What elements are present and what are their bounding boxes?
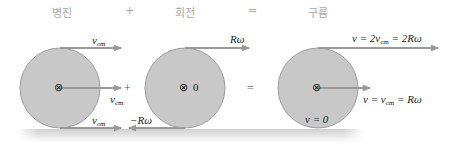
axis-icon: ⊗ — [312, 82, 321, 93]
translation-top-velocity-label: vcm — [92, 35, 105, 48]
translation-bottom-velocity-label: vcm — [92, 115, 105, 128]
ground-surface — [18, 129, 363, 143]
rolling-top-velocity-label: v = 2vcm = 2Rω — [352, 33, 422, 46]
rotation-bottom-velocity-label: −Rω — [130, 115, 152, 126]
axis-icon: ⊗ — [179, 82, 188, 93]
rotation-center-velocity-zero: 0 — [193, 82, 199, 93]
axis-icon: ⊗ — [54, 82, 63, 93]
rolling-center-velocity-label: v = vcm = Rω — [363, 94, 422, 107]
rotation-top-velocity-label: Rω — [230, 34, 245, 45]
disk-rolling — [278, 48, 438, 128]
equals-sign: = — [247, 82, 254, 94]
diagram-graphics — [0, 0, 450, 147]
plus-sign: + — [124, 82, 131, 94]
rolling-motion-diagram: 병진 + 회전 = 구름 — [0, 0, 450, 147]
disk-translation — [20, 48, 121, 128]
translation-center-velocity-label: vcm — [110, 94, 123, 107]
rolling-contact-velocity-label: v = 0 — [305, 114, 328, 125]
